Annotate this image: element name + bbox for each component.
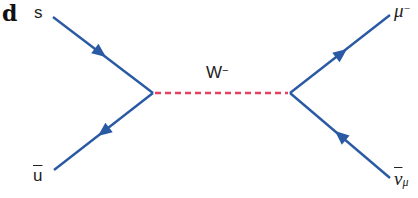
s-symbol: s — [34, 3, 43, 22]
anti-u-symbol: u — [33, 166, 42, 185]
panel-label: d — [2, 0, 17, 26]
diagram-canvas — [0, 0, 418, 198]
s-quark-line — [53, 17, 153, 93]
muon-symbol: μ — [394, 0, 404, 21]
label-s-quark: s — [34, 4, 43, 22]
w-symbol: W — [206, 63, 222, 82]
w-charge: − — [222, 64, 228, 76]
muon-charge: − — [404, 2, 411, 14]
anti-u-quark-line — [54, 93, 153, 170]
label-antineutrino: νμ — [394, 170, 408, 188]
label-w-boson: W− — [206, 64, 228, 82]
label-muon: μ− — [394, 2, 411, 20]
muon-line — [290, 15, 390, 93]
label-anti-u-quark: u — [33, 167, 42, 185]
feynman-diagram: d s u W− μ− νμ — [0, 0, 418, 198]
antineutrino-subscript: μ — [402, 175, 408, 189]
antineutrino-line — [290, 93, 390, 178]
